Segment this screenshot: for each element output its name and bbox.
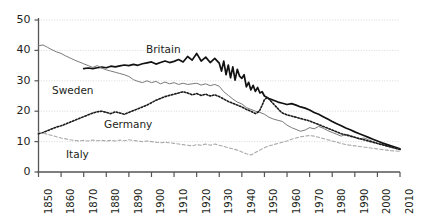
series-label-germany: Germany — [104, 118, 152, 130]
x-axis-label: 1990 — [359, 189, 370, 214]
x-axis-label: 1960 — [291, 189, 302, 214]
y-axis-label: 30 — [5, 75, 31, 86]
x-axis-label: 2000 — [381, 189, 392, 214]
x-axis-label: 1970 — [314, 189, 325, 214]
x-axis-label: 1910 — [178, 189, 189, 214]
x-axis-label: 1870 — [88, 189, 99, 214]
series-label-britain: Britain — [146, 43, 181, 55]
series-label-italy: Italy — [66, 148, 89, 160]
series-label-sweden: Sweden — [52, 84, 94, 96]
x-axis-label: 1860 — [65, 189, 76, 214]
x-axis-label: 1890 — [133, 189, 144, 214]
series-line-britain — [84, 53, 400, 148]
x-axis-label: 1850 — [43, 189, 54, 214]
y-axis-label: 20 — [5, 105, 31, 116]
x-axis-label: 1900 — [155, 189, 166, 214]
x-axis-label: 1940 — [246, 189, 257, 214]
x-axis-label: 1930 — [223, 189, 234, 214]
x-axis-label: 1920 — [201, 189, 212, 214]
series-line-germany — [39, 92, 401, 150]
x-axis-label: 2010 — [404, 189, 415, 214]
chart-container: 0102030405018501860187018801890190019101… — [0, 0, 422, 223]
y-axis-label: 40 — [5, 44, 31, 55]
y-axis-label: 50 — [5, 14, 31, 25]
x-axis-label: 1950 — [268, 189, 279, 214]
y-axis-label: 0 — [5, 166, 31, 177]
x-axis-label: 1880 — [110, 189, 121, 214]
x-axis-label: 1980 — [336, 189, 347, 214]
y-axis-label: 10 — [5, 136, 31, 147]
